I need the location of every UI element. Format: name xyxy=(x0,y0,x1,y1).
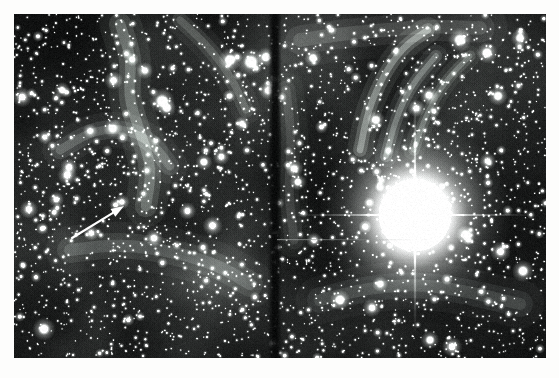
astronomical-plate-image xyxy=(14,14,546,358)
figure-page: Deep wide-field photographic plate of a … xyxy=(0,0,559,378)
sky-canvas xyxy=(14,14,546,358)
